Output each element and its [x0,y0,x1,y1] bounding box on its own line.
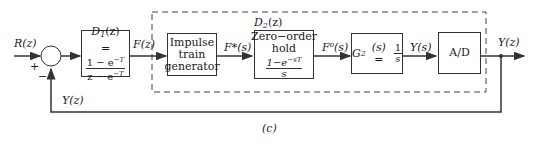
feedback-label-y-z: Y(z) [62,94,84,107]
d2-group-label: D2(z) [254,16,282,30]
signal-label-f-star: F*(s) [224,41,251,54]
minus-sign: − [38,70,47,83]
g2-block: G2(s) = 1 s [351,33,403,74]
zero-order-hold-block: Zero−order hold 1−e−sT s [254,30,314,79]
impulse-train-generator-block: Impulse train generator [167,33,217,76]
d1-transfer-function: = 1 − e−T z − e−T [82,43,129,82]
output-label-y-z: Y(z) [498,36,520,49]
zoh-transfer-function: 1−e−sT s [266,55,303,79]
d1-block: D1(z) = 1 − e−T z − e−T [81,30,130,77]
signal-label-y-s: Y(s) [410,41,432,54]
input-label-r: R(z) [14,37,37,50]
figure-caption: (c) [262,122,277,135]
signal-label-f-zero: F⁰(s) [322,41,348,54]
summing-junction [41,46,61,66]
ad-converter-block: A/D [438,32,481,74]
d1-title: D1(z) [91,26,119,41]
signal-label-f-z: F(z) [133,38,155,51]
